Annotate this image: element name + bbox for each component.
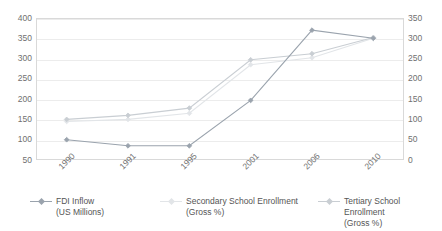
chart-legend: FDI Inflow (US Millions)Secondary School… (30, 196, 430, 228)
legend-marker-icon (318, 197, 340, 206)
data-point-marker (310, 51, 315, 56)
legend-label: Tertiary School Enrollment (Gross %) (344, 196, 430, 229)
series-line (67, 30, 374, 146)
legend-label: Secondary School Enrollment (Gross %) (186, 196, 298, 218)
data-point-marker (126, 113, 131, 118)
legend-marker-icon (30, 197, 52, 206)
legend-item[interactable]: Tertiary School Enrollment (Gross %) (318, 196, 430, 229)
legend-marker-icon (160, 197, 182, 206)
chart-container: 50100150200250300350400 0501001502002503… (0, 0, 442, 231)
legend-item[interactable]: Secondary School Enrollment (Gross %) (160, 196, 298, 218)
series-line (67, 38, 374, 121)
series-3 (64, 35, 375, 122)
data-point-marker (64, 137, 69, 142)
series-1 (64, 28, 375, 148)
legend-label: FDI Inflow (US Millions) (56, 196, 104, 218)
legend-item[interactable]: FDI Inflow (US Millions) (30, 196, 104, 218)
series-line (67, 38, 374, 120)
data-point-marker (126, 143, 131, 148)
